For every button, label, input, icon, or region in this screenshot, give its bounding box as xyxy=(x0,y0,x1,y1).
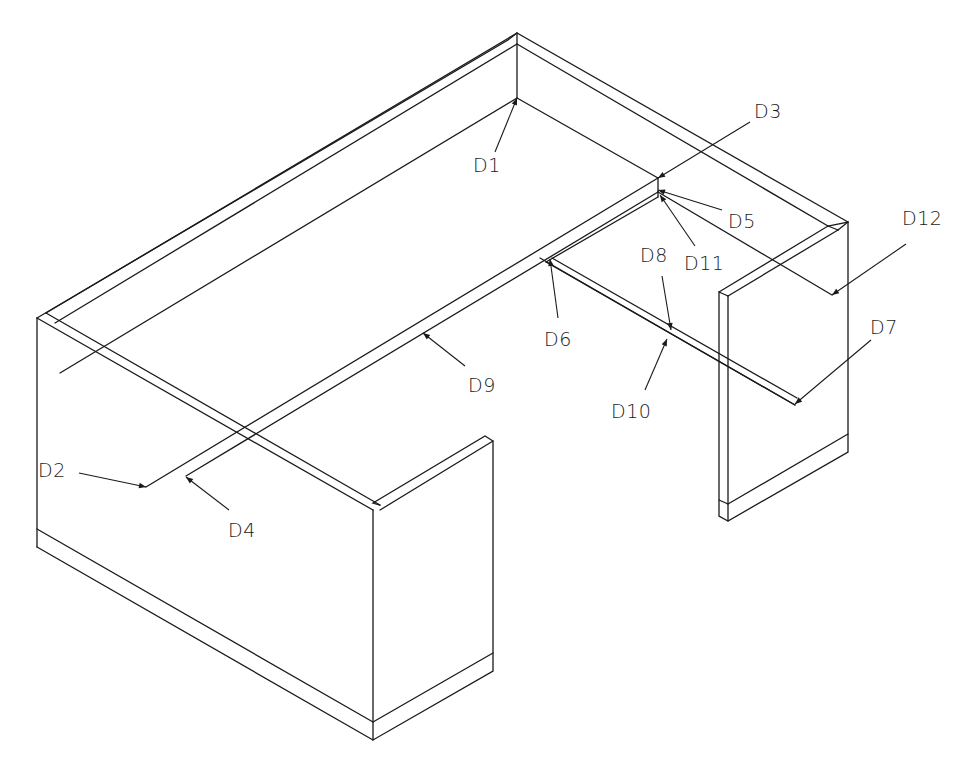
desk-front-rails xyxy=(146,178,658,487)
label-d5: D5 xyxy=(728,210,756,232)
label-d8: D8 xyxy=(640,244,668,266)
label-d11: D11 xyxy=(684,252,724,274)
dimension-labels: D1 D2 D3 D4 D5 D6 D7 D8 D9 D10 D11 D12 xyxy=(38,100,942,541)
label-d7: D7 xyxy=(870,316,898,338)
label-d2: D2 xyxy=(38,459,66,481)
label-d3: D3 xyxy=(754,100,782,122)
right-shelf-beam xyxy=(540,192,832,405)
label-d12: D12 xyxy=(902,207,942,229)
label-d1: D1 xyxy=(473,154,501,176)
label-d9: D9 xyxy=(468,374,496,396)
front-left-return-panel xyxy=(373,436,493,740)
label-d10: D10 xyxy=(611,400,651,422)
label-d6: D6 xyxy=(544,328,572,350)
drawing-canvas: D1 D2 D3 D4 D5 D6 D7 D8 D9 D10 D11 D12 xyxy=(0,0,973,764)
label-d4: D4 xyxy=(228,519,256,541)
